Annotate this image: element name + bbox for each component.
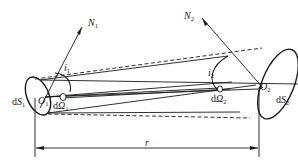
dashed-bottom <box>48 114 250 118</box>
label-area-ds2: dS2 <box>276 95 289 107</box>
label-origin-o2: O2 <box>260 82 270 94</box>
diagram-lines <box>0 0 298 167</box>
solid-angle2-circle <box>218 86 223 92</box>
arrow-n2 <box>202 18 208 26</box>
label-angle-i1: i1 <box>64 63 70 75</box>
label-area-ds1: dS1 <box>12 97 25 109</box>
arrow-n1 <box>77 27 82 35</box>
label-distance-r: r <box>145 138 149 148</box>
label-n2: N2 <box>184 11 194 23</box>
arrow-r-left <box>36 146 44 150</box>
label-solid-angle1: dΩ1 <box>53 101 68 113</box>
label-origin-o1: O1 <box>38 96 48 108</box>
label-angle-i2: i2 <box>208 68 214 80</box>
arrow-r-right <box>250 146 258 150</box>
label-n1: N1 <box>88 18 98 30</box>
label-solid-angle2: dΩ2 <box>211 94 226 106</box>
diagram-canvas: N1 N2 i1 i2 O1 O2 dS1 dS2 dΩ1 dΩ2 r <box>0 0 298 167</box>
